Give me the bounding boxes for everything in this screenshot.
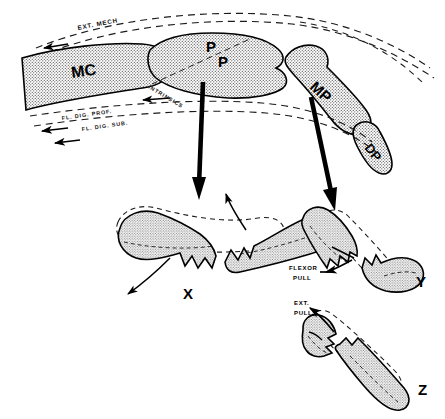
anatomical-figure: EXT. MECH MC P P MP DP I bbox=[0, 0, 445, 419]
ext-pull-label-line2: PULL bbox=[294, 310, 312, 316]
flexor-pull-label-line1: FLEXOR bbox=[289, 265, 318, 271]
panel-label-z: Z bbox=[418, 381, 427, 398]
bone-label-pp-line1: P bbox=[206, 38, 216, 55]
bone-label-pp-line2: P bbox=[218, 53, 228, 70]
ext-pull-label-line1: EXT. bbox=[294, 300, 309, 306]
bone-label-mc: MC bbox=[70, 61, 97, 81]
panel-label-y: Y bbox=[416, 273, 426, 290]
flexor-pull-label-line2: PULL bbox=[293, 275, 311, 281]
figure-canvas: EXT. MECH MC P P MP DP I bbox=[0, 0, 445, 419]
panel-label-x: X bbox=[183, 285, 193, 302]
